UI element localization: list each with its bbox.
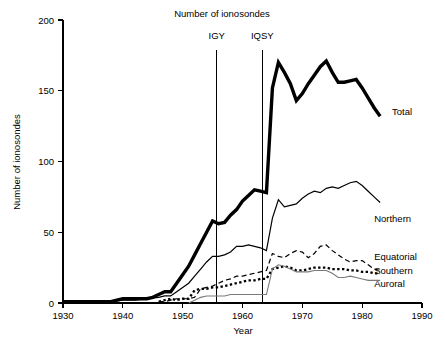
x-tick-label: 1990 <box>411 310 432 321</box>
y-tick-label: 200 <box>38 15 54 26</box>
event-label-igy: IGY <box>209 30 226 41</box>
series-labels-group: TotalNorthernEquatorialSouthernAuroral <box>374 106 417 288</box>
ionosonde-chart: 1930194019501960197019801990050100150200… <box>0 0 445 344</box>
x-axis-title: Year <box>233 325 252 336</box>
x-tick-label: 1940 <box>112 310 133 321</box>
event-label-iqsy: IQSY <box>251 30 274 41</box>
chart-svg: 1930194019501960197019801990050100150200… <box>0 0 445 344</box>
event-markers-group: IGYIQSY <box>209 30 275 303</box>
titles-group: Number of ionosondes Year Number of iono… <box>11 8 270 336</box>
y-tick-label: 100 <box>38 156 54 167</box>
x-tick-label: 1980 <box>352 310 373 321</box>
y-tick-label: 0 <box>49 298 54 309</box>
series-label-auroral: Auroral <box>374 278 405 289</box>
x-tick-label: 1970 <box>292 310 313 321</box>
series-label-southern: Southern <box>374 265 413 276</box>
series-line-total <box>63 61 380 302</box>
series-label-total: Total <box>392 106 412 117</box>
y-tick-label: 50 <box>43 227 54 238</box>
series-group <box>63 61 380 303</box>
y-tick-label: 150 <box>38 85 54 96</box>
y-axis-title: Number of ionosondes <box>11 114 22 210</box>
series-label-equatorial: Equatorial <box>374 251 417 262</box>
series-line-northern <box>63 181 380 301</box>
chart-title: Number of ionosondes <box>174 8 270 19</box>
x-tick-label: 1950 <box>172 310 193 321</box>
x-tick-label: 1930 <box>52 310 73 321</box>
series-label-northern: Northern <box>374 213 411 224</box>
x-tick-label: 1960 <box>232 310 253 321</box>
